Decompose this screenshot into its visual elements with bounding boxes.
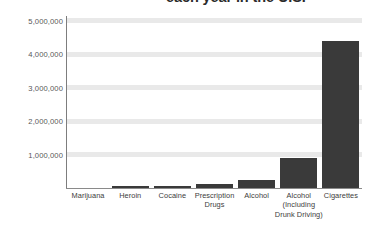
bar (154, 186, 191, 188)
y-axis-tick-label: 3,000,000 (0, 84, 63, 93)
x-axis-line (66, 188, 362, 189)
bar (280, 158, 317, 188)
x-axis-label-line: Prescription (195, 191, 235, 200)
y-axis-tick-label: 2,000,000 (0, 117, 63, 126)
x-axis-label-line: Drugs (205, 200, 225, 209)
x-axis-label-line: Drunk Driving) (275, 210, 323, 219)
x-axis-label-line: Alcohol (286, 191, 311, 200)
y-axis-tick-label: 5,000,000 (0, 17, 63, 26)
bar-chart: each year in the U.S. 1,000,0002,000,000… (0, 0, 377, 231)
bar (196, 184, 233, 188)
x-axis-label-line: Cigarettes (324, 191, 358, 200)
y-axis-tick-label: 1,000,000 (0, 151, 63, 160)
x-axis-label-line: Cocaine (159, 191, 186, 200)
bar (238, 180, 275, 188)
x-axis-category-label: Cigarettes (314, 191, 368, 200)
y-axis-tick-label: 4,000,000 (0, 50, 63, 59)
x-axis-category-labels: MarijuanaHeroinCocainePrescriptionDrugsA… (67, 191, 362, 231)
x-axis-label-line: Marijuana (72, 191, 105, 200)
x-axis-label-line: Heroin (119, 191, 141, 200)
bar (322, 41, 359, 188)
chart-title: each year in the U.S. (166, 0, 377, 5)
x-axis-label-line: Alcohol (244, 191, 269, 200)
bar (112, 186, 149, 188)
bars-layer (67, 14, 362, 188)
x-axis-label-line: (Including (283, 200, 316, 209)
